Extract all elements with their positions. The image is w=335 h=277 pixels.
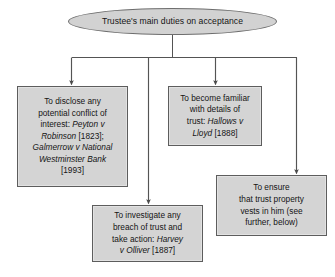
node-investigate-breach[interactable]: To investigate any breach of trust and t…	[92, 205, 203, 262]
line-4-case: Robinson	[41, 131, 76, 141]
line-2: breach of trust and	[113, 222, 182, 232]
line-4: further, below)	[245, 217, 298, 227]
line-3: vests in him (see	[240, 206, 302, 216]
line-1: To ensure	[253, 182, 289, 192]
line-2: with details of	[190, 104, 240, 114]
line-2: potential conflict of	[38, 108, 107, 118]
line-1: To disclose any	[44, 96, 101, 106]
line-3-plain: interest:	[40, 119, 72, 129]
line-2: that trust property	[239, 194, 304, 204]
line-3-case: Peyton v	[72, 119, 104, 129]
root-node-trustee-duties[interactable]: Trustee's main duties on acceptance	[68, 8, 277, 35]
line-4-year: [1823];	[76, 131, 104, 141]
flowchart-diagram: Trustee's main duties on acceptance To d…	[0, 0, 335, 277]
node-disclose-conflict[interactable]: To disclose any potential conflict of in…	[17, 86, 128, 187]
root-node-label: Trustee's main duties on acceptance	[102, 17, 243, 26]
node-investigate-breach-text: To investigate any breach of trust and t…	[109, 210, 186, 256]
line-1: To investigate any	[114, 210, 180, 220]
line-3-case: Harvey	[157, 234, 183, 244]
line-5-case: Galmerrow v National	[33, 142, 113, 152]
line-3-case: Hallows v	[208, 116, 244, 126]
line-4-year: [1887]	[150, 245, 175, 255]
line-3-plain: trust:	[187, 116, 208, 126]
node-ensure-vesting-text: To ensure that trust property vests in h…	[236, 182, 307, 228]
node-become-familiar-text: To become familiar with details of trust…	[177, 93, 253, 139]
node-ensure-vesting[interactable]: To ensure that trust property vests in h…	[216, 175, 327, 236]
node-become-familiar[interactable]: To become familiar with details of trust…	[168, 86, 262, 146]
line-3-plain: take action:	[112, 234, 157, 244]
line-4-case: Lloyd	[192, 128, 212, 138]
line-4-year: [1888]	[212, 128, 237, 138]
line-7-year: [1993]	[61, 165, 84, 175]
line-1: To become familiar	[180, 93, 250, 103]
line-4-case: v Olliver	[120, 245, 150, 255]
node-disclose-conflict-text: To disclose any potential conflict of in…	[30, 96, 116, 177]
line-6-case: Westminster Bank	[39, 154, 106, 164]
